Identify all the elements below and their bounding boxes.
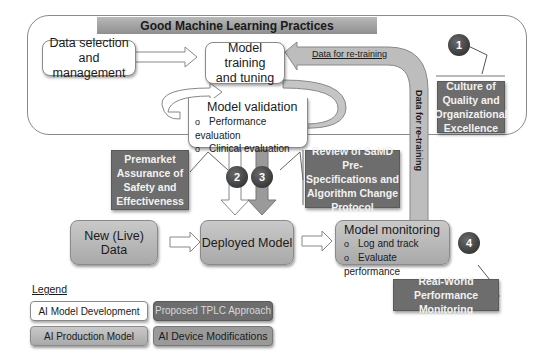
retraining-label-horizontal: Data for re-training <box>312 49 387 59</box>
validation-item: Performance evaluation <box>195 115 301 142</box>
monitoring-item: Log and track <box>344 237 441 251</box>
callout-badge-2: 2 <box>226 166 248 188</box>
callout-badge-4: 4 <box>458 232 480 254</box>
legend-proposed-tplc: Proposed TPLC Approach <box>153 301 273 321</box>
arrow-icon <box>135 47 197 67</box>
model-validation-title: Model validation <box>195 100 301 115</box>
premarket-assurance-box: PremarketAssurance ofSafety andEffective… <box>111 150 189 210</box>
legend-ai-device-modifications: AI Device Modifications <box>153 326 273 346</box>
new-live-data-box: New (Live) Data <box>70 220 158 265</box>
box-label: Data selection and <box>43 36 135 66</box>
box-label: Model training <box>206 41 284 71</box>
model-training-box: Model training and tuning <box>205 42 285 84</box>
box-label: management <box>53 66 126 81</box>
callout-badge-3: 3 <box>251 166 273 188</box>
legend-title: Legend <box>32 283 67 295</box>
legend-ai-model-development: AI Model Development <box>30 301 148 321</box>
data-selection-box: Data selection and management <box>42 40 136 76</box>
box-label: and tuning <box>216 71 274 86</box>
samd-review-box: Review of SaMD Pre-Specifications andAlg… <box>305 150 400 208</box>
legend-ai-production-model: AI Production Model <box>30 326 148 346</box>
callout-badge-1: 1 <box>448 34 470 56</box>
arrow-icon <box>170 232 200 252</box>
retraining-label-vertical: Data for re-training <box>414 90 424 171</box>
deployed-model-box: Deployed Model <box>200 220 294 265</box>
model-monitoring-title: Model monitoring <box>344 223 441 237</box>
model-validation-box: Model validation Performance evaluation … <box>188 98 308 148</box>
culture-of-quality-box: Culture ofQuality andOrganizationalExcel… <box>437 81 505 133</box>
real-world-monitoring-box: Real-World PerformanceMonitoring <box>393 279 499 311</box>
arrow-icon <box>302 231 332 251</box>
validation-item: Clinical evaluation <box>195 142 301 156</box>
model-monitoring-box: Model monitoring Log and track Evaluate … <box>335 220 450 265</box>
